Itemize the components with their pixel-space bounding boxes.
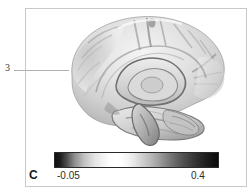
- colorbar-label-row: C -0.05 0.4: [29, 168, 229, 184]
- panel-letter: C: [29, 168, 38, 182]
- colorbar-min-label: -0.05: [57, 170, 80, 182]
- callout-label-3: 3: [5, 62, 10, 74]
- colorbar-gradient: [54, 152, 219, 168]
- figure-panel: 3: [0, 0, 252, 193]
- colorbar-max-label: 0.4: [191, 170, 205, 182]
- brain-surface-image: [48, 10, 238, 148]
- colorbar: [54, 152, 219, 168]
